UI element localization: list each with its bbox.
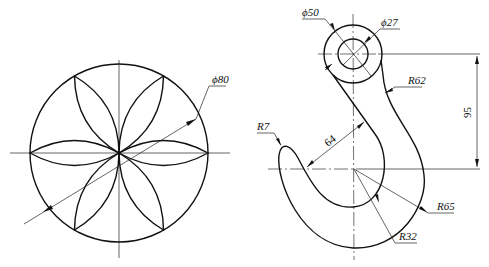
dimension-r32: R32 <box>354 169 417 243</box>
label-r7: R7 <box>256 120 270 132</box>
label-r32: R32 <box>398 230 417 242</box>
hook-vertical-centerline <box>353 14 354 260</box>
label-r62: R62 <box>407 74 426 86</box>
label-phi50: ϕ50 <box>302 6 319 18</box>
hook-body-outline <box>279 60 425 248</box>
dimension-r7: R7 <box>256 120 281 146</box>
label-64: 64 <box>322 132 338 149</box>
label-phi27: ϕ27 <box>381 16 398 28</box>
technical-drawing: ϕ80 ϕ50 ϕ27 <box>0 0 489 267</box>
label-phi80: ϕ80 <box>212 73 229 85</box>
rosette-drawing: ϕ80 <box>10 60 230 258</box>
hook-drawing: ϕ50 ϕ27 R62 95 R7 <box>256 6 480 260</box>
dimension-phi27: ϕ27 <box>343 16 400 65</box>
dimension-95: 95 <box>461 56 479 167</box>
dimension-r62: R62 <box>385 74 426 93</box>
dimension-r65: R65 <box>354 169 455 213</box>
label-r65: R65 <box>436 200 455 212</box>
label-95: 95 <box>461 107 473 119</box>
dimension-64: 64 <box>307 122 364 167</box>
